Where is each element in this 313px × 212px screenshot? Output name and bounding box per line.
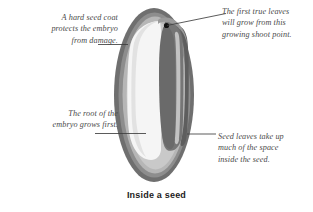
- label-first-true-leaves: The first true leaves will grow from thi…: [222, 6, 312, 40]
- leader-line-first-leaves: [167, 14, 226, 26]
- label-seed-coat: A hard seed coat protects the embryo fro…: [14, 12, 118, 46]
- seed-diagram-figure: A hard seed coat protects the embryo fro…: [0, 0, 313, 212]
- label-seed-leaves: Seed leaves take up much of the space in…: [218, 131, 312, 165]
- figure-caption: Inside a seed: [0, 190, 313, 200]
- label-embryo-root: The root of the embryo grows first.: [14, 108, 118, 131]
